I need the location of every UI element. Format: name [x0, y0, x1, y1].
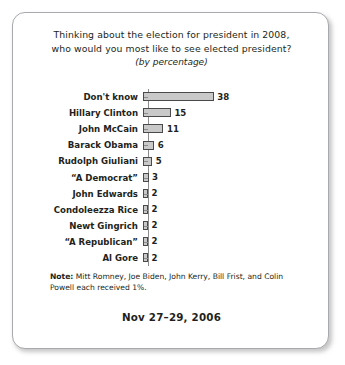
bar-value-label: 2 [152, 204, 158, 214]
axis-tick [144, 226, 148, 227]
bar-category-label: Hillary Clinton [13, 108, 143, 118]
bar-category-label: Don't know [13, 92, 143, 102]
bar-category-label: John Edwards [13, 189, 143, 199]
chart-title-block: Thinking about the election for presiden… [13, 28, 330, 69]
axis-tick [144, 194, 148, 195]
bar-row: “A Republican”2 [13, 234, 330, 250]
bar-row: Condoleezza Rice2 [13, 202, 330, 218]
bar-row: John Edwards2 [13, 186, 330, 202]
chart-title-line-2: who would you most like to see elected p… [13, 42, 330, 56]
bar-area: 5 [143, 153, 330, 169]
chart-subtitle: (by percentage) [13, 55, 330, 69]
bar-area: 2 [143, 218, 330, 234]
bar-area: 38 [143, 89, 330, 105]
bar-value-label: 5 [156, 156, 162, 166]
bar-category-label: Newt Gingrich [13, 221, 143, 231]
bar-area: 2 [143, 234, 330, 250]
bar-category-label: John McCain [13, 124, 143, 134]
bar-category-label: Condoleezza Rice [13, 205, 143, 215]
bar-category-label: Rudolph Giuliani [13, 156, 143, 166]
footnote-text: Mitt Romney, Joe Biden, John Kerry, Bill… [50, 272, 283, 292]
axis-tick [144, 210, 148, 211]
bar-row: Hillary Clinton15 [13, 105, 330, 121]
bar-area: 6 [143, 137, 330, 153]
bar [143, 92, 214, 101]
bar-category-label: “A Republican” [13, 237, 143, 247]
survey-date: Nov 27–29, 2006 [13, 311, 330, 323]
axis-tick [144, 129, 148, 130]
axis-tick [144, 258, 148, 259]
bar-value-label: 2 [152, 220, 158, 230]
horizontal-bar-chart: Don't know38Hillary Clinton15John McCain… [13, 89, 330, 264]
bar-area: 3 [143, 170, 330, 186]
bar-area: 2 [143, 250, 330, 266]
axis-tick [144, 178, 148, 179]
axis-tick [144, 161, 148, 162]
axis-tick [144, 242, 148, 243]
bar-area: 15 [143, 105, 330, 121]
chart-footnote: Note: Mitt Romney, Joe Biden, John Kerry… [50, 271, 298, 293]
bar-value-label: 2 [152, 236, 158, 246]
bar-value-label: 6 [158, 140, 164, 150]
bar-category-label: “A Democrat” [13, 173, 143, 183]
bar-row: John McCain11 [13, 121, 330, 137]
footnote-label: Note: [50, 272, 73, 281]
axis-tick [144, 145, 148, 146]
bar-area: 2 [143, 202, 330, 218]
bar-row: Don't know38 [13, 89, 330, 105]
axis-tick [144, 113, 148, 114]
bar-row: Barack Obama6 [13, 137, 330, 153]
bar-row: Al Gore2 [13, 250, 330, 266]
bar-value-label: 3 [152, 172, 158, 182]
card-inner: Thinking about the election for presiden… [13, 13, 330, 350]
bar-category-label: Barack Obama [13, 140, 143, 150]
bar-value-label: 38 [217, 92, 229, 102]
bar-row: “A Democrat”3 [13, 170, 330, 186]
chart-title-line-1: Thinking about the election for presiden… [13, 28, 330, 42]
bar-row: Rudolph Giuliani5 [13, 153, 330, 169]
bar-value-label: 2 [152, 253, 158, 263]
bar-value-label: 11 [167, 124, 179, 134]
bar-category-label: Al Gore [13, 253, 143, 263]
bar-area: 2 [143, 186, 330, 202]
bar-value-label: 2 [152, 188, 158, 198]
bar-area: 11 [143, 121, 330, 137]
bar-row: Newt Gingrich2 [13, 218, 330, 234]
poll-result-card: Thinking about the election for presiden… [12, 12, 329, 349]
axis-tick [144, 97, 148, 98]
bar-value-label: 15 [174, 108, 186, 118]
